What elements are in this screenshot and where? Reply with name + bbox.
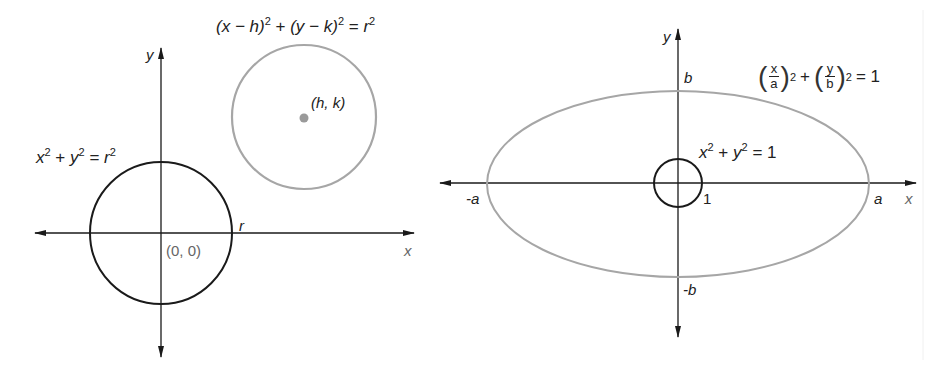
left-diagram bbox=[35, 45, 414, 357]
center-dot bbox=[300, 114, 309, 123]
tick-label-b: b bbox=[684, 70, 692, 85]
tick-label-neg-a: -a bbox=[466, 191, 479, 206]
paren-close: ) bbox=[837, 63, 846, 91]
right-x-axis-label: x bbox=[905, 191, 913, 206]
paren-close: ) bbox=[781, 63, 790, 91]
origin-label: (0, 0) bbox=[166, 243, 201, 258]
center-hk-label: (h, k) bbox=[311, 95, 345, 110]
radius-label: r bbox=[239, 218, 244, 233]
right-y-axis-label: y bbox=[663, 29, 671, 44]
ellipse-equation: ( x a )2 + ( y b )2 = 1 bbox=[758, 62, 880, 91]
paren-open: ( bbox=[758, 63, 767, 91]
fraction-y-over-b: y b bbox=[824, 62, 835, 91]
unit-circle-equation: x2 + y2 = 1 bbox=[699, 144, 777, 161]
left-x-axis-label: x bbox=[404, 243, 412, 258]
tick-label-a: a bbox=[874, 191, 882, 206]
shifted-circle-equation: (x − h)2 + (y − k)2 = r2 bbox=[216, 18, 375, 35]
fraction-x-over-a: x a bbox=[768, 62, 779, 91]
tick-label-neg-b: -b bbox=[683, 282, 696, 297]
paren-open: ( bbox=[814, 63, 823, 91]
left-y-axis-label: y bbox=[146, 47, 154, 62]
origin-circle-equation: x2 + y2 = r2 bbox=[36, 149, 116, 166]
diagram-graphics bbox=[0, 0, 943, 371]
tick-label-one: 1 bbox=[703, 191, 711, 206]
figure-canvas: y x x2 + y2 = r2 (0, 0) r (x − h)2 + (y … bbox=[0, 0, 943, 371]
